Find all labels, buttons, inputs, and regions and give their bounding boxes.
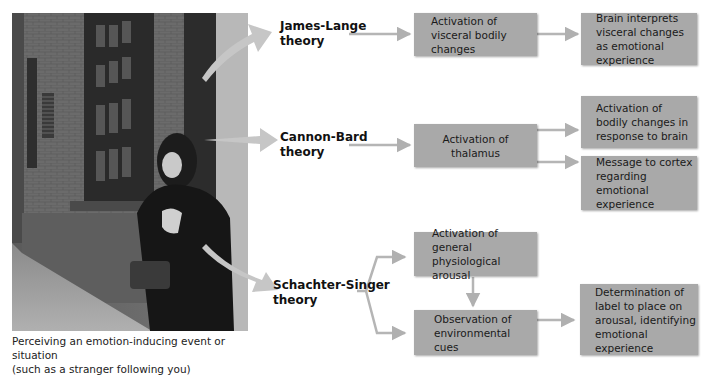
- theory-name: Schachter-Singer: [273, 278, 390, 293]
- box-thalamus-activation: Activation of thalamus: [414, 124, 537, 167]
- theory-label-cannon-bard: Cannon-Bard theory: [280, 130, 368, 160]
- box-general-arousal: Activation of general physiological arou…: [414, 232, 537, 276]
- box-brain-interprets: Brain interprets visceral changes as emo…: [581, 13, 697, 65]
- scene-photo: [12, 13, 248, 331]
- theory-label-james-lange: James-Lange theory: [280, 19, 366, 49]
- box-text: Determination of label to place on arous…: [595, 285, 698, 355]
- theory-name: Cannon-Bard: [280, 130, 368, 145]
- box-text: Activation of visceral bodily changes: [431, 14, 537, 56]
- box-visceral-activation: Activation of visceral bodily changes: [414, 13, 537, 56]
- photo-caption: Perceiving an emotion-inducing event or …: [12, 334, 262, 376]
- box-text: Observation of environmental cues: [434, 312, 537, 354]
- box-message-to-cortex: Message to cortex regarding emotional ex…: [581, 156, 697, 210]
- theory-suffix: theory: [280, 34, 366, 49]
- caption-line-1: Perceiving an emotion-inducing event or …: [12, 334, 262, 362]
- alley-scene-illustration: [12, 13, 248, 331]
- caption-line-2: (such as a stranger following you): [12, 362, 262, 376]
- box-text: Activation of thalamus: [434, 132, 517, 160]
- box-bodily-changes: Activation of bodily changes in response…: [581, 96, 697, 148]
- box-environmental-cues: Observation of environmental cues: [414, 310, 537, 355]
- box-text: Activation of bodily changes in response…: [596, 101, 697, 143]
- theory-suffix: theory: [280, 145, 368, 160]
- box-text: Brain interprets visceral changes as emo…: [596, 11, 697, 67]
- theory-label-schachter-singer: Schachter-Singer theory: [273, 278, 390, 308]
- box-label-determination: Determination of label to place on arous…: [580, 284, 698, 355]
- theory-name: James-Lange: [280, 19, 366, 34]
- theory-suffix: theory: [273, 293, 390, 308]
- box-text: Activation of general physiological arou…: [432, 226, 537, 282]
- box-text: Message to cortex regarding emotional ex…: [596, 155, 697, 211]
